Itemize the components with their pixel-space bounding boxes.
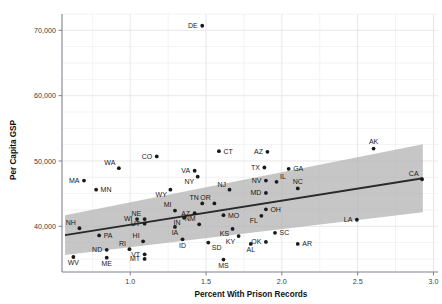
point-label: AL: [246, 246, 255, 253]
x-tick-label: 2.0: [277, 277, 287, 286]
point-label: MS: [218, 262, 229, 269]
point-marker[interactable]: [237, 234, 241, 238]
point-label: LA: [344, 216, 353, 223]
point-marker[interactable]: [193, 169, 197, 173]
point-label: AR: [302, 240, 312, 247]
y-axis-title: Per Capita GSP: [9, 119, 18, 180]
chart-canvas: 1.01.52.02.53.040,00050,00060,00070,000 …: [0, 0, 442, 304]
point-marker[interactable]: [273, 231, 277, 235]
point-label: ID: [179, 242, 186, 249]
point-marker[interactable]: [231, 227, 235, 231]
point-marker[interactable]: [206, 241, 210, 245]
y-tick-label: 50,000: [34, 157, 56, 166]
point-marker[interactable]: [249, 242, 253, 246]
point-label: MA: [69, 177, 80, 184]
point-marker[interactable]: [173, 225, 177, 229]
point-marker[interactable]: [266, 150, 270, 154]
point-marker[interactable]: [259, 214, 263, 218]
point-marker[interactable]: [143, 217, 147, 221]
point-marker[interactable]: [212, 202, 216, 206]
point-marker[interactable]: [200, 202, 204, 206]
point-label: NM: [185, 215, 196, 222]
point-label: CA: [409, 170, 419, 177]
point-marker[interactable]: [143, 222, 147, 226]
point-marker[interactable]: [264, 207, 268, 211]
point-label: OR: [200, 194, 211, 201]
point-label: OH: [270, 206, 281, 213]
scatter-plot-figure: 1.01.52.02.53.040,00050,00060,00070,000 …: [0, 0, 442, 304]
point-marker[interactable]: [296, 186, 300, 190]
point-marker[interactable]: [228, 188, 232, 192]
point-label: FL: [250, 217, 258, 224]
point-marker[interactable]: [143, 252, 147, 256]
point-label: MN: [101, 186, 112, 193]
point-label: TN: [189, 194, 198, 201]
point-marker[interactable]: [169, 188, 173, 192]
x-tick-label: 2.5: [353, 277, 363, 286]
point-label: CO: [142, 153, 153, 160]
point-marker[interactable]: [105, 248, 109, 252]
point-label: NY: [184, 178, 194, 185]
point-marker[interactable]: [94, 188, 98, 192]
point-label: SD: [212, 244, 222, 251]
x-tick-label: 1.0: [125, 277, 135, 286]
chart-background: [0, 0, 442, 304]
point-marker[interactable]: [275, 180, 279, 184]
point-label: KS: [220, 230, 230, 237]
point-label: WV: [68, 259, 80, 266]
y-tick-label: 70,000: [34, 26, 56, 35]
point-marker[interactable]: [222, 258, 226, 262]
point-label: IA: [172, 229, 179, 236]
y-tick-label: 60,000: [34, 91, 56, 100]
point-label: NV: [252, 177, 262, 184]
y-tick-label: 40,000: [34, 222, 56, 231]
point-marker[interactable]: [287, 167, 291, 171]
point-marker[interactable]: [197, 222, 201, 226]
point-marker[interactable]: [296, 242, 300, 246]
point-label: HI: [133, 232, 140, 239]
point-label: MT: [130, 255, 141, 262]
point-marker[interactable]: [71, 255, 75, 259]
point-marker[interactable]: [196, 175, 200, 179]
point-marker[interactable]: [105, 256, 109, 260]
point-marker[interactable]: [217, 149, 221, 153]
point-marker[interactable]: [355, 218, 359, 222]
point-marker[interactable]: [117, 166, 121, 170]
point-label: ND: [92, 246, 102, 253]
point-marker[interactable]: [141, 239, 145, 243]
point-marker[interactable]: [143, 257, 147, 261]
point-marker[interactable]: [97, 234, 101, 238]
point-marker[interactable]: [372, 147, 376, 151]
point-marker[interactable]: [264, 240, 268, 244]
point-label: NC: [293, 178, 303, 185]
point-label: TX: [251, 164, 260, 171]
point-label: WY: [156, 191, 168, 198]
point-label: MD: [251, 189, 262, 196]
point-label: ME: [101, 260, 112, 267]
point-marker[interactable]: [173, 209, 177, 213]
x-axis-title: Percent With Prison Records: [195, 290, 308, 299]
point-marker[interactable]: [181, 237, 185, 241]
point-label: DE: [188, 22, 198, 29]
point-label: KY: [226, 238, 236, 245]
point-marker[interactable]: [264, 191, 268, 195]
point-marker[interactable]: [82, 179, 86, 183]
point-label: RI: [119, 240, 126, 247]
point-label: NJ: [217, 181, 226, 188]
point-marker[interactable]: [78, 226, 82, 230]
point-label: NH: [66, 219, 76, 226]
point-marker[interactable]: [264, 179, 268, 183]
point-marker[interactable]: [155, 154, 159, 158]
point-label: OK: [251, 238, 261, 245]
point-marker[interactable]: [420, 177, 424, 181]
point-label: CT: [223, 148, 233, 155]
point-marker[interactable]: [263, 166, 267, 170]
point-label: SC: [280, 229, 290, 236]
point-label: AZ: [254, 148, 264, 155]
point-label: WA: [104, 159, 115, 166]
point-label: IL: [280, 173, 286, 180]
point-label: VA: [181, 167, 190, 174]
point-marker[interactable]: [200, 24, 204, 28]
point-marker[interactable]: [222, 213, 226, 217]
point-label: GA: [293, 165, 303, 172]
